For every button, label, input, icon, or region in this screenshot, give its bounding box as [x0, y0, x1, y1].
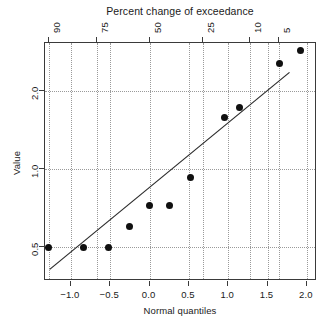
y-tick-label: 2.0: [30, 86, 40, 100]
x-tick-label: 0.5: [181, 290, 195, 300]
y-axis-title: Value: [12, 151, 22, 175]
data-point: [221, 114, 228, 121]
x-tick: [149, 281, 150, 286]
top-tick-label: 25: [206, 22, 216, 33]
chart-top-title: Percent change of exceedance: [106, 6, 254, 16]
y-tick-label: 1.0: [30, 164, 40, 178]
top-tick-label: 90: [52, 22, 62, 33]
data-point: [45, 244, 52, 251]
data-point: [276, 60, 283, 67]
x-tick-label: 1.0: [220, 290, 234, 300]
x-tick-label: 1.5: [260, 290, 274, 300]
data-point: [80, 244, 87, 251]
x-tick: [188, 281, 189, 286]
y-tick-label: 0.5: [30, 242, 40, 256]
x-tick-label: −1.0: [60, 290, 79, 300]
x-tick-label: 0.0: [142, 290, 156, 300]
x-tick: [227, 281, 228, 286]
x-tick: [267, 281, 268, 286]
data-point: [187, 174, 194, 181]
top-tick-label: 50: [153, 22, 163, 33]
top-tick-label: 75: [100, 22, 110, 33]
x-tick: [70, 281, 71, 286]
qq-plot-figure: Percent change of exceedance Normal quan…: [0, 0, 327, 321]
top-tick-label: 10: [253, 22, 263, 33]
x-tick: [306, 281, 307, 286]
plot-panel: [44, 42, 316, 280]
x-axis-title: Normal quantiles: [144, 306, 217, 316]
x-tick: [109, 281, 110, 286]
top-tick-label: 5: [282, 28, 292, 33]
x-tick-label: 2.0: [299, 290, 313, 300]
data-point: [105, 244, 112, 251]
data-point: [236, 104, 243, 111]
x-tick-label: −0.5: [100, 290, 119, 300]
